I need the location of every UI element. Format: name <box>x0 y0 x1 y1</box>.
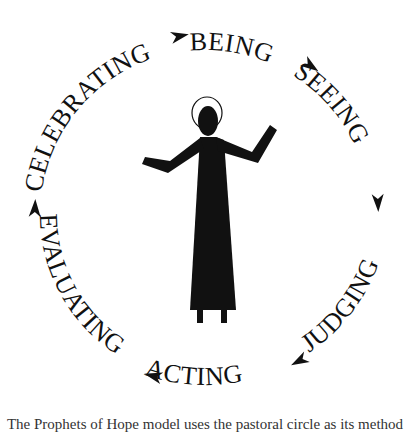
stage-being: BEING <box>189 27 278 69</box>
stage-seeing: SEEING <box>289 56 375 148</box>
arrow-celebrating-to-being-icon <box>170 28 190 43</box>
stage-judging: JUDGING <box>296 254 385 358</box>
stage-evaluating: EVALUATING <box>34 213 131 360</box>
arrow-judging-to-acting-icon <box>288 351 310 370</box>
arrow-seeing-to-judging-icon <box>372 194 385 212</box>
pastoral-circle-diagram: BEING SEEING JUDGING ACTING EVALUATING C… <box>0 0 410 433</box>
figure-caption: The Prophets of Hope model uses the past… <box>0 416 410 433</box>
stage-celebrating: CELEBRATING <box>19 37 155 194</box>
stage-acting: ACTING <box>142 353 245 391</box>
haloed-figure-icon <box>142 97 277 323</box>
